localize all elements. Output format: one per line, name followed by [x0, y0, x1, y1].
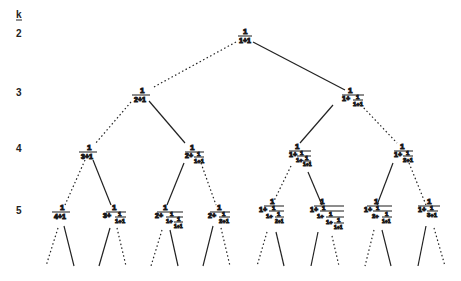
- svg-text:1: 1: [163, 203, 168, 212]
- node-n4c: 1 1+ 1 1+ 1 1+1: [289, 142, 312, 167]
- edge-dotted: [151, 230, 162, 266]
- svg-text:3+: 3+: [103, 212, 111, 219]
- svg-text:1+: 1+: [310, 206, 318, 213]
- level-label-5: 5: [16, 205, 22, 216]
- edge-solid: [93, 160, 111, 205]
- edge-solid: [99, 228, 110, 266]
- svg-text:2+: 2+: [155, 212, 163, 219]
- svg-text:1+1: 1+1: [382, 218, 391, 224]
- svg-text:2+1: 2+1: [219, 218, 230, 224]
- svg-text:3+1: 3+1: [427, 212, 438, 218]
- svg-text:3+1: 3+1: [81, 153, 93, 160]
- svg-text:2+: 2+: [208, 212, 216, 219]
- edge-solid: [311, 232, 318, 266]
- level-label-2: 2: [16, 28, 22, 39]
- edge-dotted: [365, 230, 374, 266]
- svg-text:2+: 2+: [372, 213, 379, 219]
- edge-dotted: [221, 228, 230, 266]
- edge-dotted: [95, 102, 131, 144]
- edge-dotted: [434, 228, 445, 266]
- edge-dotted: [46, 228, 58, 266]
- edge-dotted: [361, 105, 397, 143]
- svg-text:1: 1: [337, 217, 341, 223]
- edge-dotted: [201, 163, 216, 205]
- svg-text:1+1: 1+1: [174, 223, 183, 229]
- edge-solid: [418, 226, 426, 266]
- edge-solid: [377, 163, 393, 205]
- svg-text:1: 1: [60, 203, 65, 212]
- svg-text:2+1: 2+1: [403, 157, 414, 163]
- svg-text:1+1: 1+1: [353, 101, 364, 107]
- svg-text:1: 1: [400, 142, 405, 151]
- edge-dotted: [117, 228, 126, 266]
- node-n4a: 1 3+1: [79, 143, 97, 160]
- level-label-3: 3: [16, 87, 22, 98]
- edge-solid: [253, 42, 345, 90]
- svg-text:1: 1: [348, 86, 353, 95]
- node-n3b: 1 1+ 1 1+1: [342, 86, 364, 107]
- node-n5g: 1 1+ 1 2+ 1 1+1: [364, 197, 392, 224]
- node-n5f: 1 1+ 1 1+ 1 1+ 1 1+1: [310, 197, 344, 230]
- svg-text:1: 1: [277, 211, 281, 217]
- continued-fraction-tree: k 2 3 4 5: [0, 0, 461, 281]
- node-n2: 1 1+1: [238, 27, 252, 44]
- svg-text:4+1: 4+1: [54, 213, 66, 220]
- node-n5h: 1 1+ 1 3+1: [418, 197, 440, 218]
- svg-text:1+: 1+: [317, 213, 324, 219]
- edge-solid: [170, 230, 178, 266]
- edge-dotted: [257, 232, 267, 266]
- svg-text:1: 1: [140, 86, 145, 95]
- node-n5a: 1 4+1: [52, 203, 70, 220]
- edge-solid: [167, 163, 184, 205]
- svg-text:1: 1: [190, 143, 195, 152]
- svg-text:1+: 1+: [364, 206, 372, 213]
- node-n5e: 1 1+ 1 1+ 1 2+1: [259, 197, 284, 224]
- edge-dotted: [409, 163, 426, 205]
- svg-text:1+1: 1+1: [115, 218, 126, 224]
- edge-dotted: [152, 42, 236, 88]
- svg-text:1: 1: [87, 143, 92, 152]
- svg-text:2+1: 2+1: [134, 96, 146, 103]
- tree-edges: [46, 42, 445, 266]
- node-n4b: 1 2+ 1 1+1: [185, 143, 205, 164]
- svg-text:1+: 1+: [166, 218, 173, 224]
- node-n3a: 1 2+1: [132, 86, 150, 103]
- svg-text:1+: 1+: [326, 219, 333, 225]
- edge-solid: [300, 105, 333, 143]
- edge-dotted: [65, 160, 85, 205]
- node-n5b: 1 3+ 1 1+1: [103, 203, 126, 224]
- axis-label-k: k: [16, 9, 22, 20]
- edge-solid: [149, 101, 185, 143]
- svg-text:1+1: 1+1: [303, 161, 312, 167]
- svg-text:1: 1: [329, 211, 333, 217]
- edge-solid: [203, 226, 213, 266]
- svg-text:1+: 1+: [342, 95, 350, 102]
- svg-text:1: 1: [112, 203, 117, 212]
- svg-text:2+: 2+: [185, 152, 193, 159]
- node-n5c: 1 2+ 1 1+ 1 1+1: [155, 203, 183, 229]
- svg-text:1+: 1+: [394, 151, 402, 158]
- edge-dotted: [332, 236, 339, 266]
- svg-text:1+1: 1+1: [239, 37, 251, 44]
- svg-text:1+: 1+: [418, 206, 426, 213]
- level-label-4: 4: [16, 143, 22, 154]
- svg-text:1: 1: [385, 211, 389, 217]
- svg-text:1+1: 1+1: [194, 158, 205, 164]
- edge-solid: [382, 230, 391, 266]
- node-n5d: 1 2+ 1 2+1: [208, 203, 230, 224]
- svg-text:1+1: 1+1: [334, 224, 343, 230]
- edge-dotted: [272, 166, 291, 205]
- svg-text:1+: 1+: [259, 206, 267, 213]
- tree-nodes: 1 1+1 1 2+1 1 1+ 1 1+1 1 3+1 1 2: [52, 27, 440, 230]
- edge-solid: [276, 232, 284, 266]
- svg-text:1+: 1+: [266, 213, 273, 219]
- svg-text:1: 1: [243, 27, 248, 36]
- node-n4d: 1 1+ 1 2+1: [394, 142, 414, 163]
- svg-text:2+1: 2+1: [275, 218, 284, 224]
- edge-solid: [64, 226, 74, 266]
